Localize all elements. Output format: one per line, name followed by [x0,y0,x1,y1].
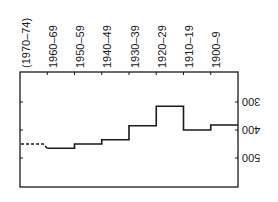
chart-stage: 3004005001900–91910–191920–291930–391940… [0,0,278,202]
y-tick-label: 300 [242,96,260,108]
x-tick-label: (1970–74) [20,18,32,68]
step-series-dashed [20,144,47,148]
x-tick-label: 1920–29 [156,25,168,68]
x-tick-label: 1900–9 [210,31,222,68]
x-tick-label: 1950–59 [74,25,86,68]
x-tick-label: 1960–69 [47,25,59,68]
x-tick-label: 1940–49 [101,25,113,68]
x-tick-label: 1930–39 [129,25,141,68]
step-chart: 3004005001900–91910–191920–291930–391940… [0,0,278,202]
x-tick-label: 1910–19 [183,25,195,68]
step-series [47,106,238,148]
y-tick-label: 400 [242,124,260,136]
y-tick-label: 500 [242,152,260,164]
